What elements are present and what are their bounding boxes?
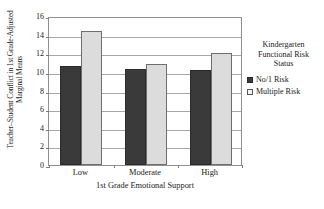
y-axis-tick	[46, 37, 49, 38]
y-axis-tick-label: 16	[30, 13, 44, 21]
bar-low-no1risk	[60, 66, 81, 165]
y-axis-title-text: Teacher–Student Conflict in 1st Grade-Ad…	[6, 4, 25, 154]
y-axis-tick-labels: 0246810121416	[30, 0, 44, 180]
y-axis-tick-label: 8	[30, 88, 44, 96]
bar-chart: Teacher–Student Conflict in 1st Grade-Ad…	[0, 0, 324, 209]
bar-high-no1risk	[190, 70, 211, 165]
x-axis-tick-label-moderate: Moderate	[129, 168, 161, 178]
y-axis-tick-label: 10	[30, 69, 44, 77]
bar-high-multiplerisk	[211, 53, 232, 165]
x-axis-tick-labels: LowModerateHigh	[48, 168, 242, 182]
x-axis-tick-label-high: High	[201, 168, 218, 178]
y-axis-tick	[46, 55, 49, 56]
y-axis-tick-label: 0	[30, 162, 44, 170]
x-axis-title: 1st Grade Emotional Support	[48, 181, 242, 191]
x-axis-tick-label-low: Low	[73, 168, 88, 178]
legend-item-label: Multiple Risk	[256, 87, 300, 97]
y-axis-tick	[46, 18, 49, 19]
x-axis-tick	[242, 165, 243, 168]
y-axis-title: Teacher–Student Conflict in 1st Grade-Ad…	[0, 0, 30, 180]
legend-title-line-1: Kindergarten	[243, 40, 324, 50]
y-axis-tick	[46, 93, 49, 94]
bar-low-multiplerisk	[81, 31, 102, 165]
y-axis-tick	[46, 148, 49, 149]
plot-area	[48, 17, 242, 166]
y-axis-tick	[46, 130, 49, 131]
legend-items: No/1 RiskMultiple Risk	[243, 75, 324, 97]
legend-title-line-2: Functional Risk	[243, 50, 324, 60]
gridline	[49, 37, 241, 38]
bar-moderate-no1risk	[125, 69, 146, 165]
y-axis-tick-label: 12	[30, 50, 44, 58]
y-axis-tick-label: 6	[30, 106, 44, 114]
light-square-swatch-icon	[247, 89, 253, 95]
y-axis-tick-label: 2	[30, 143, 44, 151]
y-axis-tick-label: 14	[30, 32, 44, 40]
y-axis-tick	[46, 111, 49, 112]
legend-item-no1risk: No/1 Risk	[247, 75, 324, 85]
legend-title: Kindergarten Functional Risk Status	[243, 40, 324, 69]
legend-title-line-3: Status	[243, 59, 324, 69]
y-axis-tick-label: 4	[30, 125, 44, 133]
legend: Kindergarten Functional Risk Status No/1…	[243, 40, 324, 99]
dark-square-swatch-icon	[247, 77, 253, 83]
y-axis-tick	[46, 74, 49, 75]
legend-item-multiplerisk: Multiple Risk	[247, 87, 324, 97]
bar-moderate-multiplerisk	[146, 64, 167, 166]
legend-item-label: No/1 Risk	[256, 75, 289, 85]
